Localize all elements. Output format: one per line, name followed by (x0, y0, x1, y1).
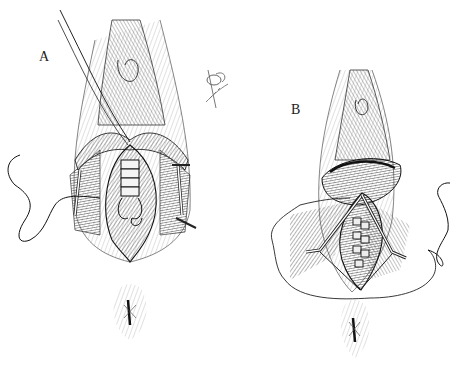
panel-a-drawing (8, 10, 196, 340)
panel-a-label: A (39, 50, 49, 64)
panel-b-label: B (291, 103, 300, 117)
surgical-illustration (0, 0, 460, 378)
illustrator-signature (198, 68, 232, 110)
